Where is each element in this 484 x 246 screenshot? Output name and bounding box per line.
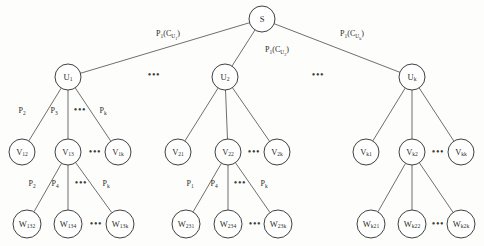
node-v21[interactable]: V21 (165, 139, 191, 165)
node-v12[interactable]: V12 (9, 139, 35, 165)
edge-label-lbl-s-u1: P1(CU1) (156, 29, 180, 41)
node-circle-w13k[interactable] (106, 210, 134, 238)
node-circle-v2k[interactable] (264, 139, 290, 165)
node-v1k[interactable]: V1k (105, 139, 131, 165)
node-circle-wk22[interactable] (398, 210, 426, 238)
node-wk2k[interactable]: Wk2k (447, 210, 475, 238)
node-circle-v1k[interactable] (105, 139, 131, 165)
edge-uk-vk1 (373, 88, 405, 141)
ellipsis-ell-v1: ••• (89, 146, 101, 157)
node-circle-v21[interactable] (165, 139, 191, 165)
node-w231[interactable]: W231 (172, 210, 200, 238)
node-v22[interactable]: V22 (215, 139, 241, 165)
ellipsis-ell-u-right: ••• (312, 69, 324, 80)
node-circle-w231[interactable] (172, 210, 200, 238)
diagram-canvas: P1(CU1)P1(CU2)P1(CUk)P2P3PkP2P4PkP1P4Pk … (0, 0, 484, 246)
ellipsis-ell-w13: ••• (90, 218, 102, 229)
edge-label-lbl-v13-w13k: Pk (102, 179, 109, 189)
node-s[interactable]: S (249, 6, 275, 32)
node-w13k[interactable]: W13k (106, 210, 134, 238)
ellipsis-ell-w23: ••• (249, 218, 261, 229)
node-w132[interactable]: W132 (13, 210, 41, 238)
node-circle-v22[interactable] (215, 139, 241, 165)
ellipsis-ell-u-left: ••• (148, 69, 160, 80)
ellipsis-ell-u1-child: ••• (74, 104, 86, 115)
tree-diagram: P1(CU1)P1(CU2)P1(CUk)P2P3PkP2P4PkP1P4Pk … (0, 0, 484, 246)
node-w234[interactable]: W234 (214, 210, 242, 238)
node-circle-uk[interactable] (399, 64, 425, 90)
edge-uk-vkk (419, 88, 454, 141)
edge-label-lbl-v22-w231: P1 (186, 179, 193, 189)
node-circle-w23k[interactable] (264, 210, 292, 238)
ellipsis-ell-v13-child: ••• (75, 177, 87, 188)
node-w134[interactable]: W134 (54, 210, 82, 238)
node-circle-w132[interactable] (13, 210, 41, 238)
node-circle-vk2[interactable] (399, 139, 425, 165)
node-vk1[interactable]: Vk1 (353, 139, 379, 165)
node-v2k[interactable]: V2k (264, 139, 290, 165)
edge-u2-v22 (226, 90, 228, 139)
node-u1[interactable]: U1 (55, 64, 81, 90)
edge-label-lbl-u1-v12: P2 (18, 106, 25, 116)
edge-label-lbl-s-u2: P1(CU2) (265, 45, 289, 57)
node-circle-vkk[interactable] (448, 139, 474, 165)
node-vkk[interactable]: Vkk (448, 139, 474, 165)
node-circle-wk21[interactable] (357, 210, 385, 238)
node-vk2[interactable]: Vk2 (399, 139, 425, 165)
edge-label-lbl-u1-v13: P3 (50, 106, 57, 116)
ellipsis-ell-wk2: ••• (432, 218, 444, 229)
edge-vk2-wk2k (419, 163, 453, 213)
node-circle-v13[interactable] (55, 139, 81, 165)
node-v13[interactable]: V13 (55, 139, 81, 165)
ellipsis-ell-vk: ••• (432, 146, 444, 157)
edge-vk2-wk21 (378, 163, 406, 212)
node-circle-u2[interactable] (212, 64, 238, 90)
node-wk21[interactable]: Wk21 (357, 210, 385, 238)
edge-s-u2 (232, 30, 255, 66)
edge-label-lbl-v13-w134: P4 (51, 179, 58, 189)
nodes-group: SU1U2UkV12V13V1kV21V22V2kVk1Vk2VkkW132W1… (9, 6, 475, 238)
node-circle-vk1[interactable] (353, 139, 379, 165)
edge-label-lbl-v22-w234: P4 (210, 179, 217, 189)
node-circle-v12[interactable] (9, 139, 35, 165)
node-wk22[interactable]: Wk22 (398, 210, 426, 238)
node-u2[interactable]: U2 (212, 64, 238, 90)
edge-label-lbl-v13-w132: P2 (28, 179, 35, 189)
node-circle-u1[interactable] (55, 64, 81, 90)
node-circle-s[interactable] (249, 6, 275, 32)
edge-s-uk (274, 24, 400, 73)
edge-u2-v21 (185, 88, 218, 141)
node-circle-w134[interactable] (54, 210, 82, 238)
edge-u2-v2k (232, 88, 269, 142)
ellipsis-ell-v2: ••• (248, 146, 260, 157)
node-uk[interactable]: Uk (399, 64, 425, 90)
node-circle-wk2k[interactable] (447, 210, 475, 238)
edge-label-lbl-v22-w23k: Pk (260, 179, 267, 189)
node-circle-w234[interactable] (214, 210, 242, 238)
edge-label-lbl-u1-v1k: Pk (99, 106, 106, 116)
ellipsis-ell-v22-child: ••• (234, 177, 246, 188)
edge-label-lbl-s-uk: P1(CUk) (340, 29, 364, 41)
node-w23k[interactable]: W23k (264, 210, 292, 238)
